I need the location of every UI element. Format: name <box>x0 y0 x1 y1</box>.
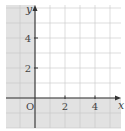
coordinate-plane: 2424 x y O <box>0 0 125 131</box>
x-tick-label: 2 <box>62 101 68 112</box>
x-tick-label: 4 <box>92 101 98 112</box>
y-tick-label: 4 <box>25 33 31 44</box>
y-axis-label: y <box>25 3 33 16</box>
x-axis-label: x <box>118 99 125 112</box>
first-quadrant-unshaded <box>35 5 121 98</box>
y-tick-label: 2 <box>25 63 31 74</box>
origin-label: O <box>26 101 34 112</box>
